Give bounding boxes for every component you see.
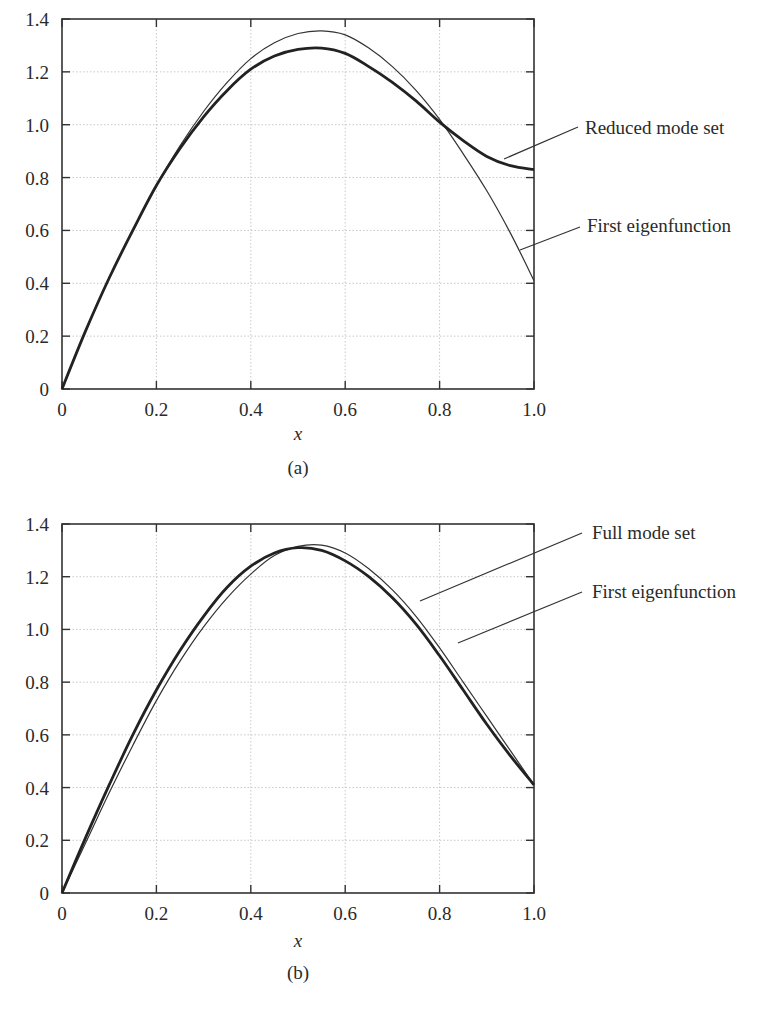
y-tick-label: 0.6	[25, 220, 49, 241]
series-reduced-mode-set	[62, 48, 534, 389]
y-tick-label: 1.4	[25, 9, 49, 30]
caption-a: (a)	[287, 457, 308, 479]
y-tick-label: 0	[40, 883, 50, 904]
x-tick-label: 0.8	[428, 399, 452, 420]
series-first-eigenfunction	[62, 31, 534, 389]
label-reduced-mode-set: Reduced mode set	[585, 117, 725, 138]
y-tick-label: 0.8	[25, 168, 49, 189]
x-tick-label: 0.8	[428, 903, 452, 924]
x-tick-label: 0.6	[333, 399, 357, 420]
leader-line-full	[420, 533, 582, 601]
plot-frame	[62, 19, 534, 389]
plot-frame	[62, 524, 534, 893]
x-axis-label-b: x	[293, 930, 303, 951]
label-first-eigenfunction-b: First eigenfunction	[592, 581, 737, 602]
caption-b: (b)	[287, 962, 309, 984]
leader-line-first-b	[458, 592, 582, 643]
y-tick-label: 0.2	[25, 830, 49, 851]
y-tick-label: 0	[40, 379, 50, 400]
x-tick-label: 0.2	[145, 903, 169, 924]
plot-a: 00.20.40.60.81.000.20.40.60.81.01.21.4	[25, 9, 546, 420]
y-tick-label: 0.4	[25, 778, 49, 799]
x-tick-label: 0.6	[333, 903, 357, 924]
series-full-mode-set	[62, 548, 534, 893]
x-tick-label: 0.2	[145, 399, 169, 420]
plot-b: 00.20.40.60.81.000.20.40.60.81.01.21.4	[25, 514, 546, 924]
x-tick-label: 0	[57, 399, 67, 420]
y-tick-label: 0.4	[25, 273, 49, 294]
x-axis-label-a: x	[293, 423, 303, 444]
y-tick-label: 1.2	[25, 62, 49, 83]
x-tick-label: 1.0	[522, 399, 546, 420]
y-tick-label: 0.2	[25, 326, 49, 347]
y-tick-label: 1.0	[25, 115, 49, 136]
x-tick-label: 0	[57, 903, 67, 924]
x-tick-label: 1.0	[522, 903, 546, 924]
label-full-mode-set: Full mode set	[592, 522, 696, 543]
y-tick-label: 1.2	[25, 567, 49, 588]
label-first-eigenfunction-a: First eigenfunction	[587, 215, 732, 236]
y-tick-label: 0.6	[25, 725, 49, 746]
x-tick-label: 0.4	[239, 903, 263, 924]
y-tick-label: 1.4	[25, 514, 49, 535]
leader-line-reduced	[504, 127, 578, 159]
y-tick-label: 1.0	[25, 619, 49, 640]
x-tick-label: 0.4	[239, 399, 263, 420]
figure: 00.20.40.60.81.000.20.40.60.81.01.21.4 0…	[0, 0, 767, 1010]
y-tick-label: 0.8	[25, 672, 49, 693]
